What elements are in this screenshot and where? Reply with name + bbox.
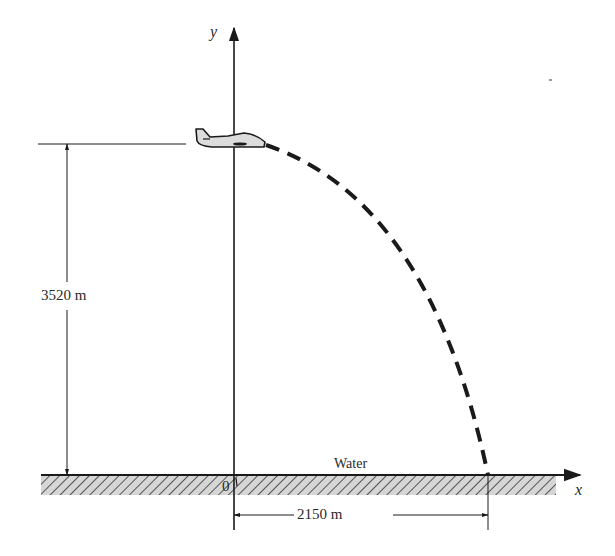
airplane-icon [196,129,265,147]
trajectory-path [266,145,488,475]
water-surface [41,475,560,495]
y-axis-label: y [210,24,217,40]
height-label: 3520 m [41,288,86,303]
projectile-diagram: y x 0 Water 3520 m 2150 m [0,0,615,556]
range-label: 2150 m [297,507,342,522]
surface-label: Water [334,457,367,471]
x-axis-label: x [575,482,582,498]
origin-label: 0 [222,479,230,494]
